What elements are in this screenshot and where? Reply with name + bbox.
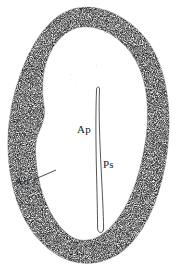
- label-ao: Ao: [15, 176, 29, 187]
- lumen-scatter-stipple: [0, 0, 181, 272]
- label-ap: Ap: [77, 124, 91, 135]
- label-ps: Ps: [103, 159, 114, 170]
- anatomical-cross-section-figure: [0, 0, 181, 272]
